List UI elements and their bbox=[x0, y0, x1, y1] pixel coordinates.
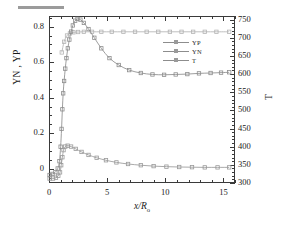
figure-container: YN , YP T x/Ro 05101500.20.40.60.8300350… bbox=[0, 0, 286, 228]
x-axis-title-subscript: o bbox=[147, 206, 150, 213]
x-axis-title-main: x/R bbox=[134, 201, 147, 211]
y-right-tick-label: 650 bbox=[238, 51, 268, 60]
legend-label-yp: YP bbox=[192, 39, 201, 46]
series-yp bbox=[48, 144, 231, 180]
y-right-tick-label: 700 bbox=[238, 33, 268, 42]
y-right-tick-label: 750 bbox=[238, 15, 268, 24]
x-tick-label: 5 bbox=[95, 187, 119, 197]
legend-label-yn: YN bbox=[192, 48, 202, 55]
axis-tick bbox=[230, 183, 235, 184]
y-right-tick-label: 350 bbox=[238, 160, 268, 169]
legend-label-t: T bbox=[192, 57, 196, 64]
y-left-tick-label: 0 bbox=[18, 164, 44, 173]
y-right-tick-label: 300 bbox=[238, 178, 268, 187]
legend-item-t: T bbox=[163, 56, 211, 64]
x-axis-title: x/Ro bbox=[97, 201, 187, 213]
y-right-tick-label: 600 bbox=[238, 69, 268, 78]
x-tick-label: 0 bbox=[37, 187, 61, 197]
y-right-tick-label: 450 bbox=[238, 124, 268, 133]
y-left-tick-label: 0.6 bbox=[18, 57, 44, 66]
chart-legend: YP YN T bbox=[163, 38, 211, 65]
y-right-tick-label: 400 bbox=[238, 142, 268, 151]
y-right-tick-label: 550 bbox=[238, 87, 268, 96]
y-left-tick-label: 0.4 bbox=[18, 93, 44, 102]
legend-swatch-yp bbox=[163, 38, 189, 46]
x-tick-label: 10 bbox=[153, 187, 177, 197]
y-left-tick-label: 0.2 bbox=[18, 128, 44, 137]
legend-swatch-yn bbox=[163, 47, 189, 55]
legend-item-yp: YP bbox=[163, 38, 211, 46]
top-artifact-bar bbox=[18, 6, 64, 9]
legend-item-yn: YN bbox=[163, 47, 211, 55]
x-tick-label: 15 bbox=[211, 187, 235, 197]
axis-tick bbox=[235, 16, 236, 19]
axis-tick bbox=[235, 180, 236, 183]
y-left-tick-label: 0.8 bbox=[18, 22, 44, 31]
legend-swatch-t bbox=[163, 56, 189, 64]
y-right-tick-label: 500 bbox=[238, 105, 268, 114]
